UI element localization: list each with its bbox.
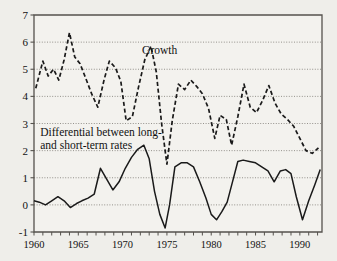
x-tick-label: 1980	[201, 239, 222, 250]
differential-label-line1: Differential between long-	[40, 126, 162, 139]
y-tick-label: 5	[23, 63, 29, 75]
y-tick-label: 3	[23, 118, 29, 130]
y-tick-label: -1	[19, 226, 28, 238]
y-tick-label: 0	[23, 199, 29, 211]
growth-label: Growth	[142, 44, 177, 56]
y-tick-label: 1	[23, 172, 29, 184]
y-tick-label: 2	[23, 145, 29, 157]
x-tick-label: 1960	[24, 239, 45, 250]
x-tick-label: 1965	[68, 239, 89, 250]
y-tick-label: 7	[23, 9, 29, 21]
y-tick-label: 4	[23, 90, 29, 102]
x-tick-label: 1975	[156, 239, 177, 250]
x-tick-label: 1970	[112, 239, 133, 250]
differential-label-line2: and short-term rates	[40, 139, 132, 151]
x-tick-label: 1985	[245, 239, 266, 250]
y-tick-label: 6	[23, 36, 29, 48]
chart-figure: -1012345671960196519701975198019851990Gr…	[0, 0, 337, 261]
line-chart: -1012345671960196519701975198019851990Gr…	[0, 0, 337, 261]
x-tick-label: 1990	[289, 239, 310, 250]
